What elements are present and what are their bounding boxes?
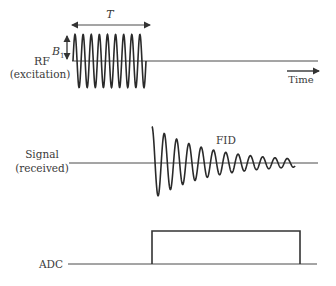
adc-row: ADC	[38, 231, 317, 270]
adc-window	[152, 231, 300, 264]
signal-label: Signal	[25, 148, 59, 160]
time-label: Time	[288, 74, 313, 85]
fid-label: FID	[216, 134, 236, 146]
rf-sublabel: (excitation)	[10, 68, 71, 80]
signal-sublabel: (received)	[15, 162, 69, 174]
rf-row: RF (excitation) T B1 Time	[10, 8, 319, 88]
amplitude-label: B1	[51, 45, 65, 60]
signal-row: Signal (received) FID	[15, 127, 318, 196]
adc-label: ADC	[38, 258, 63, 270]
rf-label: RF	[34, 55, 50, 68]
duration-label: T	[106, 8, 115, 21]
pulse-sequence-diagram: RF (excitation) T B1 Time Signal (receiv…	[0, 0, 336, 286]
